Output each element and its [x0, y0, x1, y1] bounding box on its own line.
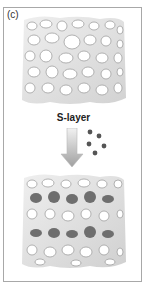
panel-label: (c) [7, 9, 19, 20]
s-layer-protein-particles [84, 128, 110, 158]
s-layer-label: S-layer [0, 112, 147, 123]
porous-scaffold-before [20, 14, 128, 106]
porous-scaffold-after [20, 172, 128, 270]
down-arrow-icon [60, 128, 84, 168]
